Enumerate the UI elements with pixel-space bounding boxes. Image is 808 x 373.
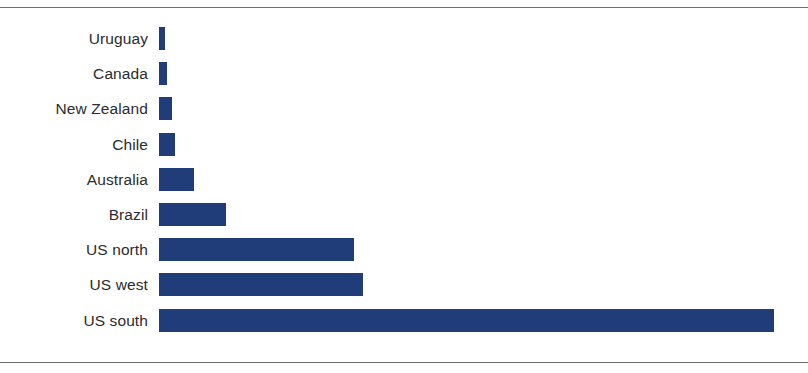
category-label-canada: Canada [0,62,148,85]
category-label-us-south: US south [0,309,148,332]
bar-brazil [159,203,226,226]
bar-us-south [159,309,774,332]
category-label-brazil: Brazil [0,203,148,226]
bar-row: New Zealand [0,97,808,120]
category-label-us-north: US north [0,238,148,261]
category-label-uruguay: Uruguay [0,27,148,50]
bar-row: Canada [0,62,808,85]
bar-new-zealand [159,97,172,120]
bar-row: Chile [0,133,808,156]
bar-uruguay [159,27,165,50]
bar-row: Brazil [0,203,808,226]
bar-row: US south [0,309,808,332]
bar-australia [159,168,194,191]
category-label-chile: Chile [0,133,148,156]
bar-canada [159,62,167,85]
bar-us-north [159,238,354,261]
category-label-new-zealand: New Zealand [0,97,148,120]
category-label-us-west: US west [0,273,148,296]
bar-row: US west [0,273,808,296]
bar-us-west [159,273,363,296]
plot-area: UruguayCanadaNew ZealandChileAustraliaBr… [0,0,808,373]
bar-chart-figure: UruguayCanadaNew ZealandChileAustraliaBr… [0,0,808,373]
bar-row: Uruguay [0,27,808,50]
bar-row: Australia [0,168,808,191]
bar-row: US north [0,238,808,261]
category-label-australia: Australia [0,168,148,191]
bar-chile [159,133,175,156]
